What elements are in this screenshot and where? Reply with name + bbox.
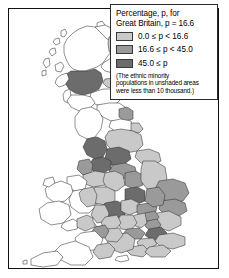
legend-swatch-light-gray-icon	[116, 32, 133, 41]
legend-item-class-3: 45.0 ≤ p	[116, 57, 213, 69]
region-isle-of-wight	[115, 255, 129, 262]
region-dyfed	[39, 201, 71, 225]
legend-class-list: 0.0 ≤ p < 16.6 16.6 ≤ p < 45.0 45.0 ≤ p	[116, 30, 213, 69]
region-skye	[55, 62, 64, 72]
legend-note-line2: populations in unshaded areas	[116, 79, 213, 86]
legend-note-line3: were less than 10 thousand.)	[116, 87, 213, 94]
region-lewis	[53, 38, 60, 45]
legend-title-line1: Percentage, p, for	[116, 9, 213, 19]
legend-note: (The ethnic minority populations in unsh…	[116, 72, 213, 94]
region-scilly	[23, 260, 27, 264]
legend-label-class-3: 45.0 ≤ p	[138, 59, 168, 68]
region-warwickshire	[121, 199, 139, 215]
region-lancashire	[83, 137, 107, 159]
region-cumbria	[75, 107, 103, 139]
region-outer-hebrides	[61, 29, 67, 37]
legend-swatch-dark-gray-icon	[116, 59, 133, 68]
region-cornwall	[31, 251, 63, 267]
region-mid-glamorgan	[77, 215, 95, 231]
map-legend: Percentage, p, for Great Britain, p = 16…	[110, 4, 218, 100]
region-uist	[43, 58, 50, 68]
region-nottinghamshire	[125, 171, 143, 189]
region-harris	[49, 48, 56, 56]
region-barra	[42, 70, 46, 76]
legend-label-class-2: 16.6 ≤ p < 45.0	[138, 45, 193, 54]
legend-item-class-1: 0.0 ≤ p < 16.6	[116, 30, 213, 42]
legend-item-class-2: 16.6 ≤ p < 45.0	[116, 44, 213, 56]
legend-swatch-medium-gray-icon	[116, 45, 133, 54]
legend-title: Percentage, p, for Great Britain, p = 16…	[116, 9, 213, 28]
legend-title-line2: Great Britain, p = 16.6	[116, 19, 213, 29]
legend-note-line1: (The ethnic minority	[116, 72, 213, 79]
choropleth-map-figure: Percentage, p, for Great Britain, p = 16…	[0, 0, 229, 278]
legend-label-class-1: 0.0 ≤ p < 16.6	[138, 32, 188, 41]
